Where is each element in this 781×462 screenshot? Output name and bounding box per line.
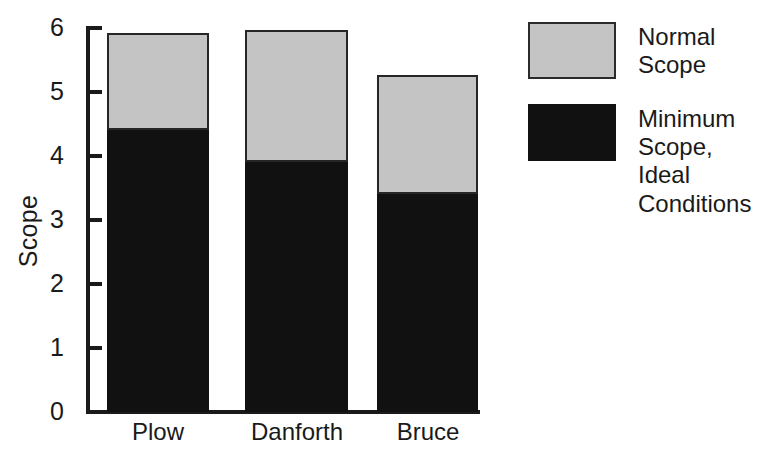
y-tick-label-4-wrap: 4	[18, 143, 64, 169]
legend: Normal Scope Minimum Scope, Ideal Condit…	[528, 22, 778, 242]
legend-swatch-normal-scope-icon	[528, 22, 616, 79]
x-label-danforth: Danforth	[238, 419, 356, 445]
y-tick-label-5-wrap: 5	[18, 79, 64, 105]
y-tick-label-1-wrap: 1	[18, 335, 64, 361]
y-tick-label-0-wrap: 0	[18, 399, 64, 425]
y-tick-label-5: 5	[18, 79, 64, 104]
y-tick-label-2-wrap: 2	[18, 271, 64, 297]
bar-bruce[interactable]	[377, 75, 478, 412]
bar-danforth[interactable]	[245, 30, 348, 412]
y-tick-2	[86, 282, 102, 286]
bar-segment-normal-scope[interactable]	[245, 30, 348, 162]
y-tick-label-4: 4	[18, 143, 64, 168]
bar-segment-minimum-scope[interactable]	[245, 162, 348, 412]
chart-container: Scope 6 5 4 3 2 1 0 Plow Danforth Bruce …	[0, 0, 781, 462]
y-tick-label-3-wrap: 3	[18, 207, 64, 233]
y-tick-label-0: 0	[18, 399, 64, 424]
y-tick-label-1: 1	[18, 335, 64, 360]
y-tick-6	[86, 26, 102, 30]
bar-plow[interactable]	[107, 33, 209, 412]
y-tick-3	[86, 218, 102, 222]
y-tick-1	[86, 346, 102, 350]
y-tick-5	[86, 90, 102, 94]
bar-segment-minimum-scope[interactable]	[377, 194, 478, 412]
bar-segment-minimum-scope[interactable]	[107, 130, 209, 412]
legend-label-minimum-scope: Minimum Scope, Ideal Conditions	[638, 104, 751, 218]
y-tick-4	[86, 154, 102, 158]
legend-entry-minimum-scope[interactable]: Minimum Scope, Ideal Conditions	[528, 104, 778, 218]
y-tick-label-6-wrap: 6	[18, 15, 64, 41]
x-label-plow: Plow	[107, 419, 209, 445]
legend-entry-normal-scope[interactable]: Normal Scope	[528, 22, 778, 80]
x-label-bruce: Bruce	[377, 419, 479, 445]
y-tick-label-6: 6	[18, 15, 64, 40]
legend-swatch-minimum-scope-icon	[528, 104, 616, 161]
bar-segment-normal-scope[interactable]	[377, 75, 478, 194]
legend-label-normal-scope: Normal Scope	[638, 22, 715, 80]
y-tick-label-3: 3	[18, 207, 64, 232]
bar-segment-normal-scope[interactable]	[107, 33, 209, 129]
y-tick-label-2: 2	[18, 271, 64, 296]
